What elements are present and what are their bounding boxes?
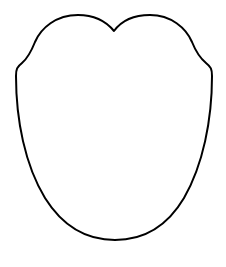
drawing-canvas bbox=[0, 0, 226, 267]
tongue-outline-drawing bbox=[0, 0, 226, 267]
tongue-outline-shape bbox=[16, 15, 212, 240]
